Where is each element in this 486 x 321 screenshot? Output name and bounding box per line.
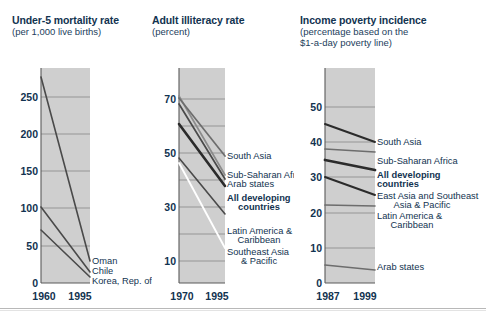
ytick-10: 10 (164, 255, 176, 267)
ytick-50: 50 (26, 240, 38, 252)
series-label-south-asia: South Asia (377, 137, 422, 147)
series-label-oman: Oman (92, 256, 117, 266)
ytick-10: 10 (310, 242, 322, 254)
xtick-1970: 1970 (170, 290, 194, 302)
ytick-40: 40 (310, 136, 322, 148)
series-label-southeast-asia-line2: & Pacific (241, 256, 278, 266)
chart-income-poverty: 50 40 30 20 10 0 1987 1999 South Asia Su… (300, 0, 486, 308)
series-line-latin-america (325, 205, 375, 206)
ytick-0: 0 (32, 277, 38, 289)
series-label-all-developing-line2: countries (377, 179, 419, 189)
plot-area-background (325, 68, 375, 283)
ytick-200: 200 (20, 128, 38, 140)
series-label-chile: Chile (92, 266, 113, 276)
panel-under-5-mortality: Under-5 mortality rate (per 1,000 live b… (12, 0, 152, 308)
ytick-0: 0 (316, 277, 322, 289)
series-label-arab-states: Arab states (227, 179, 274, 189)
series-label-east-asia-line2: Asia & Pacific (394, 200, 451, 210)
series-label-all-developing-line2: countries (238, 202, 280, 212)
figure-container: Under-5 mortality rate (per 1,000 live b… (0, 0, 486, 321)
ytick-250: 250 (20, 91, 38, 103)
ytick-30: 30 (310, 171, 322, 183)
series-label-latin-america-line2: Caribbean (238, 235, 281, 245)
series-label-south-asia: South Asia (227, 151, 272, 161)
panel-adult-illiteracy: Adult illiteracy rate (percent) (152, 0, 294, 308)
panel-income-poverty: Income poverty incidence (percentage bas… (300, 0, 486, 308)
series-label-sub-saharan-africa: Sub-Saharan Africa (377, 156, 458, 166)
ytick-50: 50 (164, 147, 176, 159)
xtick-1999: 1999 (353, 290, 377, 302)
chart-adult-illiteracy: 70 50 30 10 1970 1995 South Asia Sub-Sah… (152, 0, 294, 308)
plot-area-background (41, 68, 90, 283)
ytick-30: 30 (164, 201, 176, 213)
series-label-latin-america-line2: Caribbean (391, 220, 434, 230)
ytick-20: 20 (310, 207, 322, 219)
xtick-1960: 1960 (32, 290, 56, 302)
xtick-1995: 1995 (205, 290, 229, 302)
ytick-50: 50 (310, 101, 322, 113)
xtick-1987: 1987 (316, 290, 340, 302)
chart-under-5-mortality: 250 200 150 100 50 0 1960 1995 Oman Chil… (12, 0, 152, 308)
series-label-arab-states: Arab states (377, 262, 424, 272)
series-label-korea: Korea, Rep. of (92, 276, 152, 286)
ytick-70: 70 (164, 93, 176, 105)
xtick-1995: 1995 (68, 290, 92, 302)
bottom-divider-shadow (0, 310, 486, 311)
bottom-divider (0, 308, 486, 309)
ytick-100: 100 (20, 202, 38, 214)
ytick-150: 150 (20, 165, 38, 177)
